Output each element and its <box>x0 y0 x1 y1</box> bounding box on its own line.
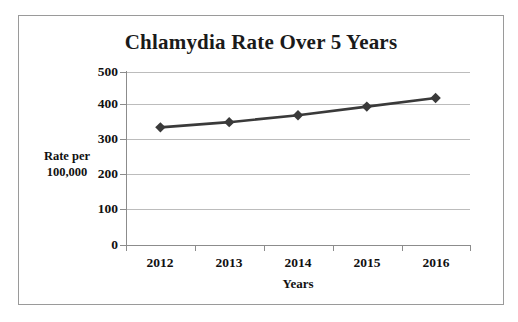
data-series-layer <box>0 0 518 322</box>
data-point-2013 <box>224 117 234 127</box>
chart-figure: Chlamydia Rate Over 5 Years 500 400 300 … <box>0 0 518 322</box>
series-markers <box>155 93 441 133</box>
data-point-2014 <box>293 110 303 120</box>
data-point-2016 <box>430 93 440 103</box>
data-point-2012 <box>155 122 165 132</box>
data-point-2015 <box>362 101 372 111</box>
